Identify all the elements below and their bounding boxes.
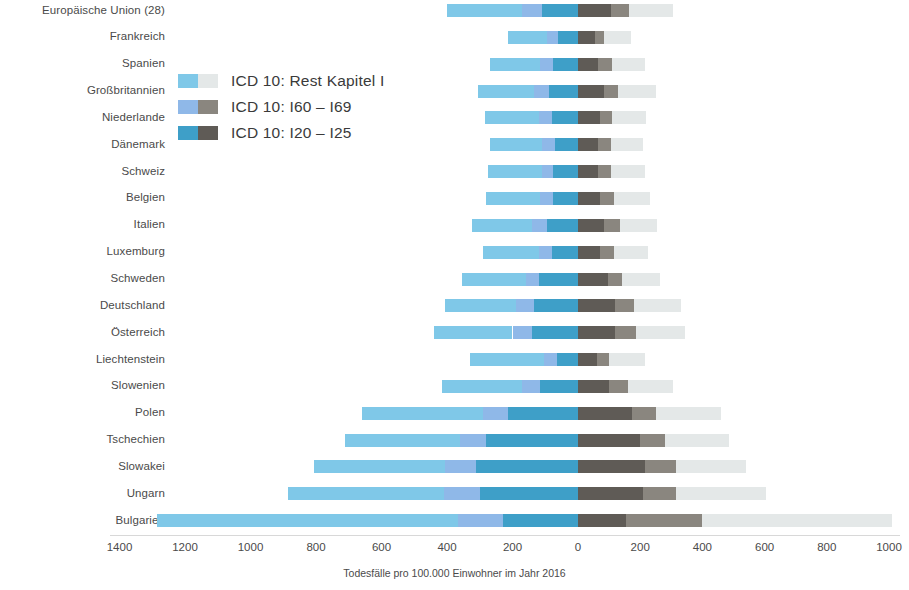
- stacked-bar: [0, 58, 909, 71]
- chart-row: Tschechien: [0, 434, 909, 447]
- bar-segment: [462, 273, 526, 286]
- bar-segment: [552, 111, 578, 124]
- bar-segment: [542, 138, 555, 151]
- chart-row: Spanien: [0, 58, 909, 71]
- bar-segment: [555, 138, 578, 151]
- legend-swatch-left: [178, 74, 198, 88]
- bar-segment: [634, 299, 681, 312]
- bar-segment: [540, 192, 553, 205]
- legend-swatch-pair: [178, 100, 218, 114]
- bar-segment: [614, 192, 650, 205]
- bar-segment: [547, 31, 558, 44]
- bar-segment: [600, 111, 612, 124]
- legend-item[interactable]: ICD 10: I20 – I25: [178, 122, 384, 143]
- bar-segment: [434, 326, 513, 339]
- bar-segment: [578, 326, 615, 339]
- bar-segment: [552, 246, 578, 259]
- bar-segment: [539, 273, 578, 286]
- bar-segment: [503, 514, 578, 527]
- chart-row: Liechtenstein: [0, 353, 909, 366]
- x-axis-tick: 200: [631, 541, 650, 553]
- bar-segment: [612, 111, 646, 124]
- bar-segment: [665, 434, 729, 447]
- bar-segment: [628, 380, 673, 393]
- bar-segment: [532, 219, 547, 232]
- bar-segment: [598, 58, 612, 71]
- stacked-bar: [0, 514, 909, 527]
- legend-label: ICD 10: I20 – I25: [231, 124, 352, 142]
- bar-segment: [640, 434, 665, 447]
- chart-row: Belgien: [0, 192, 909, 205]
- legend-swatch-right: [198, 100, 218, 114]
- bar-segment: [490, 138, 542, 151]
- bar-segment: [612, 58, 645, 71]
- bar-segment: [578, 165, 598, 178]
- legend-swatch-left: [178, 100, 198, 114]
- x-axis-tick: 400: [437, 541, 456, 553]
- bar-segment: [643, 487, 676, 500]
- chart-row: Europäische Union (28): [0, 4, 909, 17]
- legend-item[interactable]: ICD 10: Rest Kapitel I: [178, 70, 384, 91]
- bar-segment: [702, 514, 892, 527]
- bar-segment: [618, 85, 655, 98]
- bar-segment: [578, 514, 626, 527]
- stacked-bar: [0, 434, 909, 447]
- bar-segment: [578, 246, 600, 259]
- bar-segment: [597, 353, 609, 366]
- bar-segment: [598, 165, 610, 178]
- bar-segment: [549, 85, 578, 98]
- plot-area: Europäische Union (28)FrankreichSpanienG…: [0, 0, 909, 535]
- bar-segment: [476, 460, 578, 473]
- bar-segment: [608, 273, 622, 286]
- chart-row: Niederlande: [0, 111, 909, 124]
- bar-segment: [611, 138, 644, 151]
- stacked-bar: [0, 138, 909, 151]
- bar-segment: [629, 4, 673, 17]
- bar-segment: [485, 111, 539, 124]
- bar-segment: [547, 219, 578, 232]
- x-axis-tick: 800: [817, 541, 836, 553]
- x-axis-tick: 600: [372, 541, 391, 553]
- bar-segment: [578, 460, 645, 473]
- bar-segment: [553, 58, 578, 71]
- chart-row: Slowenien: [0, 380, 909, 393]
- bar-segment: [458, 514, 502, 527]
- x-axis-tick: 200: [503, 541, 522, 553]
- bar-segment: [488, 165, 542, 178]
- bar-segment: [578, 111, 600, 124]
- legend-item[interactable]: ICD 10: I60 – I69: [178, 96, 384, 117]
- chart-row: Großbritannien: [0, 85, 909, 98]
- legend-swatch-pair: [178, 126, 218, 140]
- bar-segment: [656, 407, 721, 420]
- bar-segment: [526, 273, 539, 286]
- stacked-bar: [0, 487, 909, 500]
- bar-segment: [534, 299, 578, 312]
- bar-segment: [578, 407, 632, 420]
- stacked-bar: [0, 165, 909, 178]
- bar-segment: [513, 326, 533, 339]
- stacked-bar: [0, 326, 909, 339]
- legend-swatch-right: [198, 74, 218, 88]
- bar-segment: [540, 380, 578, 393]
- bar-segment: [478, 85, 534, 98]
- bar-segment: [470, 353, 544, 366]
- x-axis-tick: 1400: [107, 541, 133, 553]
- bar-segment: [645, 460, 676, 473]
- stacked-bar: [0, 380, 909, 393]
- bar-segment: [362, 407, 483, 420]
- x-axis: 1400120010008006004002000200400600800100…: [0, 535, 909, 590]
- x-axis-tick: 400: [693, 541, 712, 553]
- chart-legend: ICD 10: Rest Kapitel IICD 10: I60 – I69I…: [178, 70, 384, 148]
- chart-root: Europäische Union (28)FrankreichSpanienG…: [0, 0, 909, 590]
- bar-segment: [486, 192, 540, 205]
- bar-segment: [632, 407, 655, 420]
- bar-segment: [544, 353, 557, 366]
- bar-segment: [611, 165, 645, 178]
- bar-segment: [578, 380, 609, 393]
- chart-row: Slowakei: [0, 460, 909, 473]
- bar-segment: [516, 299, 534, 312]
- chart-row: Italien: [0, 219, 909, 232]
- bar-segment: [578, 192, 600, 205]
- bar-segment: [578, 273, 608, 286]
- bar-segment: [542, 165, 553, 178]
